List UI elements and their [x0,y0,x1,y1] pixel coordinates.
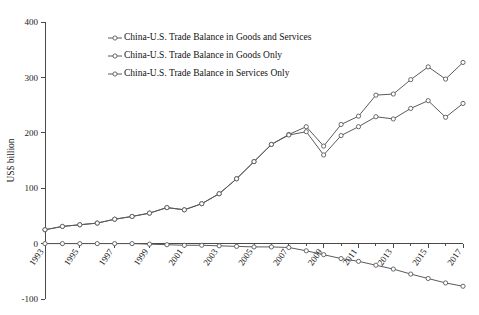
data-point-marker [165,205,169,209]
data-point-marker [443,77,447,81]
series-1 [43,99,465,232]
legend-swatch-marker [113,72,117,76]
data-point-marker [391,267,395,271]
data-point-marker [217,192,221,196]
data-point-marker [269,245,273,249]
data-point-marker [391,92,395,96]
data-point-marker [339,133,343,137]
x-tick-label: 2011 [341,247,359,267]
data-point-marker [182,243,186,247]
data-point-marker [426,65,430,69]
x-tick-label: 2009 [306,247,325,268]
data-point-marker [130,242,134,246]
data-point-marker [409,78,413,82]
data-point-marker [374,115,378,119]
data-point-marker [426,99,430,103]
y-tick-label: 400 [25,17,39,27]
y-tick-label: -100 [22,294,39,304]
x-tick-label: 1999 [132,247,151,268]
data-point-marker [443,281,447,285]
data-point-marker [252,245,256,249]
x-tick-label: 2003 [201,247,220,268]
data-point-marker [304,249,308,253]
data-point-marker [322,144,326,148]
y-axis-title: US$ billion [6,138,16,182]
x-tick-label: 1997 [97,247,116,268]
series-line [45,101,463,230]
x-axis-tick-labels: 1993199519971999200120032005200720092011… [27,247,464,268]
data-point-marker [200,243,204,247]
data-point-marker [43,242,47,246]
data-point-marker [461,101,465,105]
data-point-marker [304,125,308,129]
series-0 [43,60,465,232]
data-point-marker [78,223,82,227]
data-point-marker [130,214,134,218]
legend-swatch-marker [113,54,117,58]
trade-balance-line-chart: -1000100200300400 US$ billion 1993199519… [0,0,479,315]
data-point-marker [78,242,82,246]
data-point-marker [165,243,169,247]
data-point-marker [200,202,204,206]
data-point-marker [113,217,117,221]
data-point-marker [147,211,151,215]
data-point-marker [95,221,99,225]
x-tick-label: 2007 [271,247,290,268]
data-point-marker [409,272,413,276]
legend-swatch-marker [113,36,117,40]
data-point-marker [322,253,326,257]
x-tick-label: 2001 [166,247,185,267]
data-point-marker [60,242,64,246]
legend-label: China-U.S. Trade Balance in Goods and Se… [124,32,312,42]
data-point-marker [356,114,360,118]
data-point-marker [461,284,465,288]
data-point-marker [426,276,430,280]
data-point-marker [269,142,273,146]
data-point-marker [391,117,395,121]
data-point-marker [339,256,343,260]
legend-label: China-U.S. Trade Balance in Goods Only [124,50,282,60]
data-point-marker [304,130,308,134]
data-point-marker [287,245,291,249]
data-point-marker [409,106,413,110]
x-tick-label: 2017 [445,247,464,268]
x-tick-label: 1995 [62,247,81,268]
data-point-marker [339,122,343,126]
data-point-marker [43,228,47,232]
y-tick-label: 100 [25,183,39,193]
data-point-marker [234,244,238,248]
x-axis-group: 1993199519971999200120032005200720092011… [27,244,464,268]
chart-legend: China-U.S. Trade Balance in Goods and Se… [108,32,312,78]
data-point-marker [234,177,238,181]
y-tick-label: 300 [25,73,39,83]
data-point-marker [461,60,465,64]
data-point-marker [374,263,378,267]
x-tick-label: 2015 [410,247,429,268]
x-tick-label: 1993 [27,247,46,268]
data-point-marker [147,242,151,246]
data-point-marker [252,160,256,164]
data-point-marker [217,244,221,248]
data-point-marker [443,115,447,119]
data-point-marker [113,242,117,246]
data-point-marker [287,133,291,137]
legend-label: China-U.S. Trade Balance in Services Onl… [124,68,290,78]
x-tick-label: 2005 [236,247,255,268]
data-point-marker [182,208,186,212]
data-point-marker [356,259,360,263]
data-point-marker [374,93,378,97]
data-point-marker [322,153,326,157]
y-tick-label: 200 [25,128,39,138]
data-point-marker [60,224,64,228]
data-point-marker [356,125,360,129]
data-point-marker [95,242,99,246]
chart-container: -1000100200300400 US$ billion 1993199519… [0,0,479,315]
series-line [45,62,463,229]
